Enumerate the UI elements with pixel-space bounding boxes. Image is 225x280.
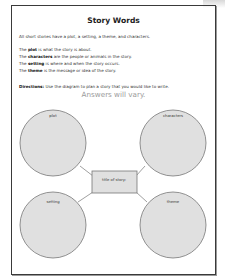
label-title-of-story: title of story: xyxy=(94,177,134,182)
label-theme: theme xyxy=(153,199,193,204)
term-plot: plot xyxy=(28,47,37,52)
directions-label: Directions: xyxy=(19,84,44,89)
worksheet-title: Story Words xyxy=(11,16,216,25)
label-plot: plot xyxy=(33,113,73,118)
term-setting: setting xyxy=(28,61,44,66)
label-setting: setting xyxy=(33,199,73,204)
definition-setting: The setting is where and when the story … xyxy=(19,61,120,66)
definition-plot: The plot is what the story is about. xyxy=(19,47,92,52)
directions: Directions: Use the diagram to plan a st… xyxy=(19,84,169,89)
worksheet-border xyxy=(11,5,216,275)
term-theme: theme xyxy=(28,68,43,73)
definition-theme: The theme is the message or idea of the … xyxy=(19,68,116,73)
term-characters: characters xyxy=(28,54,53,59)
definition-characters: The characters are the people or animals… xyxy=(19,54,132,59)
answer-note: Answers will vary. xyxy=(11,90,216,99)
directions-text: Use the diagram to plan a story that you… xyxy=(44,84,169,89)
label-characters: characters xyxy=(153,113,193,118)
intro-text: All short stories have a plot, a setting… xyxy=(19,34,150,39)
